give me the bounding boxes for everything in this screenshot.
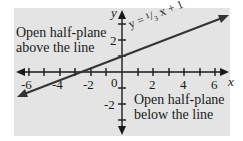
y-tick-label: 2 bbox=[110, 34, 117, 47]
x-tick-label: -6 bbox=[21, 78, 32, 91]
x-tick-label: -4 bbox=[52, 78, 63, 91]
x-tick-label: 2 bbox=[149, 78, 156, 91]
region-below-line2: below the line bbox=[134, 107, 225, 122]
region-above-label: Open half-plane above the line bbox=[16, 25, 107, 55]
x-tick-label: 6 bbox=[211, 78, 218, 91]
region-above-line1: Open half-plane bbox=[16, 25, 107, 40]
y-axis-name: y bbox=[111, 6, 117, 19]
x-tick-label: -2 bbox=[83, 78, 94, 91]
region-above-line2: above the line bbox=[16, 40, 107, 55]
x-tick-label: 0 bbox=[111, 76, 118, 89]
y-tick-label: -2 bbox=[104, 98, 115, 111]
region-below-line1: Open half-plane bbox=[134, 92, 225, 107]
x-axis-name: x bbox=[228, 75, 234, 88]
region-below-label: Open half-plane below the line bbox=[134, 92, 225, 122]
x-tick-label: 4 bbox=[180, 78, 187, 91]
